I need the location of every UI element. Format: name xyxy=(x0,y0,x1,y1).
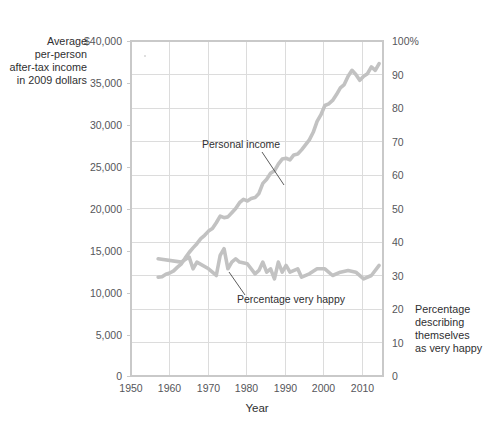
chart-figure: $40,000 35,000 30,000 25,000 20,000 15,0… xyxy=(0,0,491,429)
left-tick-40000: $40,000 xyxy=(84,35,122,47)
right-tick-40: 40 xyxy=(392,236,404,248)
annotation-percentage-very-happy-label: Percentage very happy xyxy=(237,293,346,305)
right-tick-50: 50 xyxy=(392,203,404,215)
annotation-personal-income-label: Personal income xyxy=(202,138,280,150)
right-tick-10: 10 xyxy=(392,337,404,349)
left-tick-0: 0 xyxy=(116,370,122,382)
left-tick-15000: 15,000 xyxy=(90,245,122,257)
right-tick-20: 20 xyxy=(392,303,404,315)
x-tick-1960: 1960 xyxy=(158,382,182,394)
left-axis-title-line-3: after-tax income xyxy=(10,61,87,73)
left-tick-30000: 30,000 xyxy=(90,119,122,131)
right-tick-90: 90 xyxy=(392,69,404,81)
left-axis-title-line-2: per-person xyxy=(35,48,87,60)
left-axis-title-line-1: Average xyxy=(47,35,87,47)
income-happiness-line-chart: $40,000 35,000 30,000 25,000 20,000 15,0… xyxy=(0,0,491,429)
right-tick-60: 60 xyxy=(392,169,404,181)
left-tick-35000: 35,000 xyxy=(90,77,122,89)
right-tick-30: 30 xyxy=(392,270,404,282)
left-tick-5000: 5,000 xyxy=(96,329,122,341)
left-axis-title: Average per-person after-tax income in 2… xyxy=(10,35,88,86)
left-axis-tick-labels: $40,000 35,000 30,000 25,000 20,000 15,0… xyxy=(84,35,122,382)
right-axis-title-line-2: describing xyxy=(415,316,464,328)
x-tick-1980: 1980 xyxy=(235,382,259,394)
right-tick-100: 100% xyxy=(392,35,419,47)
left-tick-25000: 25,000 xyxy=(90,161,122,173)
right-axis-title-line-3: themselves xyxy=(415,329,470,341)
right-axis-title-line-4: as very happy xyxy=(415,342,483,354)
x-tick-1990: 1990 xyxy=(274,382,298,394)
left-tick-10000: 10,000 xyxy=(90,287,122,299)
left-tick-20000: 20,000 xyxy=(90,203,122,215)
x-tick-1950: 1950 xyxy=(119,382,143,394)
x-tick-2000: 2000 xyxy=(312,382,336,394)
right-tick-80: 80 xyxy=(392,102,404,114)
x-axis-title: Year xyxy=(245,402,268,414)
x-axis-tick-labels: 1950 1960 1970 1980 1990 2000 2010 xyxy=(119,382,374,394)
left-axis-title-line-4: in 2009 dollars xyxy=(17,74,88,86)
right-axis-title-line-1: Percentage xyxy=(415,303,470,315)
right-tick-0: 0 xyxy=(392,370,398,382)
left-axis-tickmarks xyxy=(127,42,131,377)
x-tick-2010: 2010 xyxy=(351,382,375,394)
right-axis-title: Percentage describing themselves as very… xyxy=(415,303,483,354)
right-tick-70: 70 xyxy=(392,136,404,148)
x-tick-1970: 1970 xyxy=(197,382,221,394)
image-speck xyxy=(144,55,146,57)
